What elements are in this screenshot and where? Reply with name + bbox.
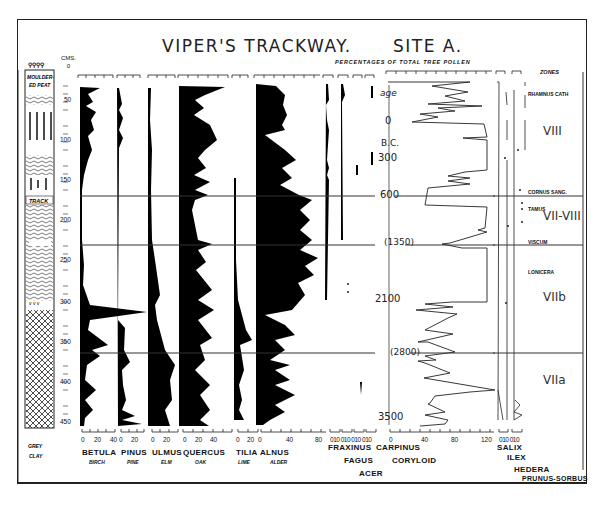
silhouettes xyxy=(80,84,373,426)
svg-text:GREY: GREY xyxy=(28,443,43,449)
axis-tick: 0 xyxy=(183,436,187,443)
taxon-common: BIRCH xyxy=(89,459,105,465)
depth-tick: 350 xyxy=(60,338,71,345)
taxon-label: PINUS xyxy=(121,448,147,457)
axis-tick: 40 xyxy=(110,436,117,443)
pinus-curve xyxy=(117,88,142,426)
zone-species: LONICERA xyxy=(528,269,554,275)
age-label: (1350) xyxy=(384,237,414,247)
zone-label: VII-VIII xyxy=(543,209,581,223)
axis-tick: 80 xyxy=(315,436,322,443)
taxon-common: LIME xyxy=(238,459,250,465)
axis-tick: 010 010 xyxy=(499,436,519,443)
taxon-label: QUERCUS xyxy=(183,448,225,457)
taxon-label: CORYLOID xyxy=(392,456,436,465)
depth-tick: 50 xyxy=(64,96,71,103)
age-label: age xyxy=(380,88,397,98)
zone-species: VISCUM xyxy=(528,239,547,245)
axis-tick: 40 xyxy=(421,436,428,443)
taxon-common: OAK xyxy=(195,459,206,465)
taxon-label: ACER xyxy=(359,469,383,478)
taxon-label: PRUNUS-SORBUS xyxy=(522,475,588,482)
zone-label: VIII xyxy=(543,124,562,138)
axis-tick: 0 xyxy=(119,436,123,443)
taxon-label: FAGUS xyxy=(344,456,373,465)
zone-species: RHAMNUS CATH xyxy=(528,91,568,97)
axis-tick: 40 xyxy=(210,436,217,443)
depth-tick: 100 xyxy=(60,136,71,143)
taxon-common: ELM xyxy=(161,459,172,465)
axis-tick: 0 xyxy=(258,436,262,443)
age-label: 300 xyxy=(378,152,397,163)
axis-tick: 20 xyxy=(163,436,170,443)
quercus-curve xyxy=(179,86,225,426)
zone-species: CORNUS SANG. xyxy=(528,189,567,195)
zone-label: VIIa xyxy=(543,373,566,387)
age-label: 2100 xyxy=(375,293,400,304)
axis-tick: 20 xyxy=(247,436,254,443)
zone-label: VIIb xyxy=(543,290,566,304)
age-label: (2800) xyxy=(390,347,420,357)
taxon-label: ULMUS xyxy=(152,448,182,457)
taxon-common: PINE xyxy=(127,459,139,465)
age-label: 600 xyxy=(380,189,399,200)
depth-tick: 300 xyxy=(60,298,71,305)
fraxinus-curve xyxy=(325,84,329,300)
taxon-label: TILIA xyxy=(236,448,258,457)
alnus-curve xyxy=(256,84,318,425)
pollen-diagram-svg: ⚲⚲⚲⚲ MOULDER- ED PEAT TRACK v v v GREY C… xyxy=(0,0,597,505)
axis-tick: 80 xyxy=(451,436,458,443)
svg-text:⚲⚲⚲⚲: ⚲⚲⚲⚲ xyxy=(28,62,44,68)
axis-tick: 20 xyxy=(131,436,138,443)
age-label: 3500 xyxy=(378,411,403,422)
axis-tick: 010 010 010 010 xyxy=(330,436,371,443)
svg-text:ED PEAT: ED PEAT xyxy=(29,82,51,88)
depth-tick: 150 xyxy=(60,176,71,183)
axis-tick: 0 xyxy=(236,436,240,443)
trace-dots xyxy=(347,149,523,304)
depth-tick: 450 xyxy=(60,418,71,425)
minor-taxa-traces xyxy=(497,82,525,420)
lithology-column: ⚲⚲⚲⚲ MOULDER- ED PEAT TRACK v v v GREY C… xyxy=(18,62,54,484)
taxon-common: ALDER xyxy=(270,459,287,465)
taxon-label: FRAXINUS xyxy=(328,443,371,452)
taxon-label: CARPINUS xyxy=(376,443,420,452)
depth-tick: 200 xyxy=(60,216,71,223)
axis-tick: 20 xyxy=(94,436,101,443)
axis-tick: 40 xyxy=(286,436,293,443)
taxon-label: BETULA xyxy=(82,448,116,457)
betula-curve xyxy=(80,87,147,426)
bottom-scale-bars xyxy=(82,429,522,432)
taxon-label: ALNUS xyxy=(260,448,289,457)
coryloid-curve xyxy=(388,82,495,426)
axis-tick: 20 xyxy=(195,436,202,443)
axis-tick: 0 xyxy=(151,436,155,443)
depth-tick: 250 xyxy=(60,256,71,263)
fagus-curve xyxy=(341,84,345,240)
ulmus-curve xyxy=(148,88,175,426)
age-label: 0 xyxy=(385,115,391,126)
taxon-label: HEDERA xyxy=(514,465,550,474)
axis-tick: 120 xyxy=(481,436,492,443)
svg-text:v v v: v v v xyxy=(29,300,40,306)
tilia-curve xyxy=(234,178,252,420)
axis-tick: 0 xyxy=(81,436,85,443)
age-label: B.C. xyxy=(381,138,399,148)
taxon-label: SALIX xyxy=(497,443,522,452)
depth-tick: 400 xyxy=(60,378,71,385)
svg-text:CLAY: CLAY xyxy=(29,453,43,459)
axis-tick: 0 xyxy=(389,436,393,443)
svg-text:TRACK: TRACK xyxy=(29,198,49,204)
top-scale-bars xyxy=(78,71,521,78)
svg-text:MOULDER-: MOULDER- xyxy=(27,74,54,80)
taxon-label: ILEX xyxy=(507,453,526,462)
